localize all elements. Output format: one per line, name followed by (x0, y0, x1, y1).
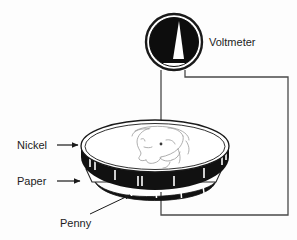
label-penny: Penny (60, 217, 92, 229)
voltmeter[interactable] (146, 14, 202, 70)
label-nickel: Nickel (17, 139, 47, 151)
label-voltmeter: Voltmeter (209, 36, 256, 48)
penny-leader (90, 195, 130, 214)
nickel-part (81, 120, 229, 190)
penny-nickel-cell-diagram: Voltmeter Nickel Paper Penny (0, 0, 297, 240)
nickel-top-face (81, 120, 229, 172)
nickel-contact-point (160, 143, 163, 146)
diagram-canvas: Voltmeter Nickel Paper Penny (0, 0, 297, 240)
label-paper: Paper (17, 175, 47, 187)
